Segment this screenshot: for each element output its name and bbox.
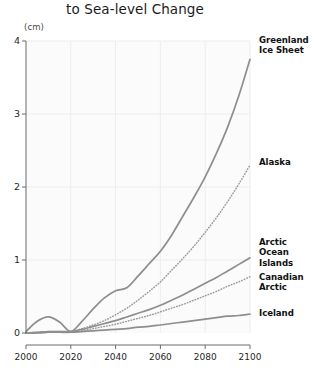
x-tick-2100: 2100 [230,352,270,362]
series-label-canadian-arctic: Canadian Arctic [259,272,304,293]
x-tick-2040: 2040 [96,352,136,362]
y-tick-0: 0 [6,327,20,338]
x-tick-2060: 2060 [140,352,180,362]
series-label-greenland: Greenland Ice Sheet [259,35,309,56]
chart-root: to Sea-level Change (cm) 01234 200020202… [0,0,316,372]
y-tick-4: 4 [6,35,20,46]
series-label-iceland: Iceland [259,308,294,318]
y-tick-1: 1 [6,254,20,265]
series-label-alaska: Alaska [259,157,291,167]
x-tick-2020: 2020 [51,352,91,362]
series-label-arctic-ocean-islands: Arctic Ocean Islands [259,237,293,268]
x-tick-2000: 2000 [6,352,46,362]
x-tick-2080: 2080 [185,352,225,362]
y-tick-2: 2 [6,181,20,192]
y-tick-3: 3 [6,108,20,119]
